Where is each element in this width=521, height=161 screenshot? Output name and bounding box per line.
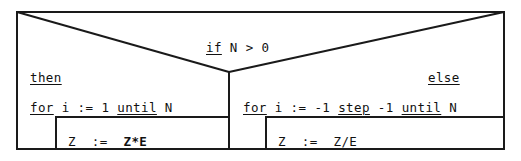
then-stmt-target: Z	[68, 134, 76, 149]
else-loop-from: -1	[314, 100, 330, 115]
then-loop-sep-2	[70, 100, 78, 115]
else-loop-to: N	[449, 100, 457, 115]
then-loop-var: i	[62, 100, 70, 115]
else-body-statement: Z := Z/E	[278, 135, 357, 149]
condition-expression-text	[222, 40, 230, 55]
else-loop-sep-2	[283, 100, 291, 115]
else-stmt-target: Z	[278, 134, 286, 149]
else-loop-sep-1	[267, 100, 275, 115]
else-loop-sep-6	[394, 100, 402, 115]
else-stmt-assign: :=	[302, 134, 318, 149]
then-label: then	[30, 71, 62, 85]
structogram-canvas: if N > 0 then else for i := 1 until N fo…	[0, 0, 521, 161]
else-loop-step: -1	[378, 100, 394, 115]
else-stmt-sep-2	[318, 134, 334, 149]
keyword-if: if	[206, 40, 222, 55]
else-loop-header: for i := -1 step -1 until N	[243, 101, 457, 115]
else-stmt-sep-1	[286, 134, 302, 149]
then-stmt-sep-2	[108, 134, 124, 149]
then-loop-sep-1	[54, 100, 62, 115]
keyword-for-then: for	[30, 100, 54, 115]
structogram-diagram: if N > 0 then else for i := 1 until N fo…	[16, 11, 505, 150]
then-loop-assign: :=	[78, 100, 94, 115]
else-loop-assign: :=	[291, 100, 307, 115]
keyword-for-else: for	[243, 100, 267, 115]
condition-expression: N > 0	[230, 40, 270, 55]
keyword-until-else: until	[402, 100, 442, 115]
condition-text: if N > 0	[206, 41, 269, 55]
else-loop-sep-7	[441, 100, 449, 115]
then-loop-to: N	[165, 100, 173, 115]
else-loop-var: i	[275, 100, 283, 115]
then-loop-sep-5	[157, 100, 165, 115]
then-body-statement: Z := Z*E	[68, 135, 147, 149]
else-stmt-expression: Z/E	[334, 134, 358, 149]
else-label: else	[428, 71, 460, 85]
then-stmt-sep-1	[76, 134, 92, 149]
then-loop-header: for i := 1 until N	[30, 101, 173, 115]
then-stmt-assign: :=	[92, 134, 108, 149]
else-loop-sep-5	[370, 100, 378, 115]
then-stmt-expression: Z*E	[124, 134, 148, 149]
keyword-step-else: step	[338, 100, 370, 115]
else-loop-sep-4	[330, 100, 338, 115]
keyword-until-then: until	[117, 100, 157, 115]
